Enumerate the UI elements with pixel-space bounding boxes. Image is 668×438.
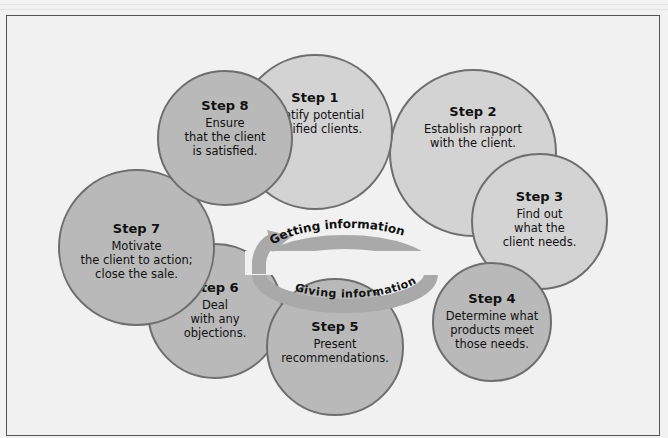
step-2-desc: Establish rapport with the client. [424, 122, 522, 150]
step-4-title: Step 4 [468, 291, 515, 306]
diagram-frame: Step 1 Identify potential qualified clie… [6, 15, 660, 436]
step-7-title: Step 7 [113, 221, 160, 236]
step-5-title: Step 5 [311, 319, 358, 334]
step-4-desc: Determine what products meet those needs… [446, 309, 539, 351]
step-1-title: Step 1 [291, 90, 338, 105]
cycle-arrow-icon: Getting information Giving information [237, 216, 457, 316]
step-8-title: Step 8 [201, 98, 248, 113]
step-8-desc: Ensure that the client is satisfied. [184, 116, 265, 158]
step-8-circle: Step 8 Ensure that the client is satisfi… [157, 70, 293, 206]
step-3-desc: Find out what the client needs. [503, 207, 577, 249]
step-3-title: Step 3 [516, 189, 563, 204]
step-5-desc: Present recommendations. [281, 337, 389, 365]
step-2-title: Step 2 [449, 104, 496, 119]
step-7-desc: Motivate the client to action; close the… [80, 239, 192, 281]
